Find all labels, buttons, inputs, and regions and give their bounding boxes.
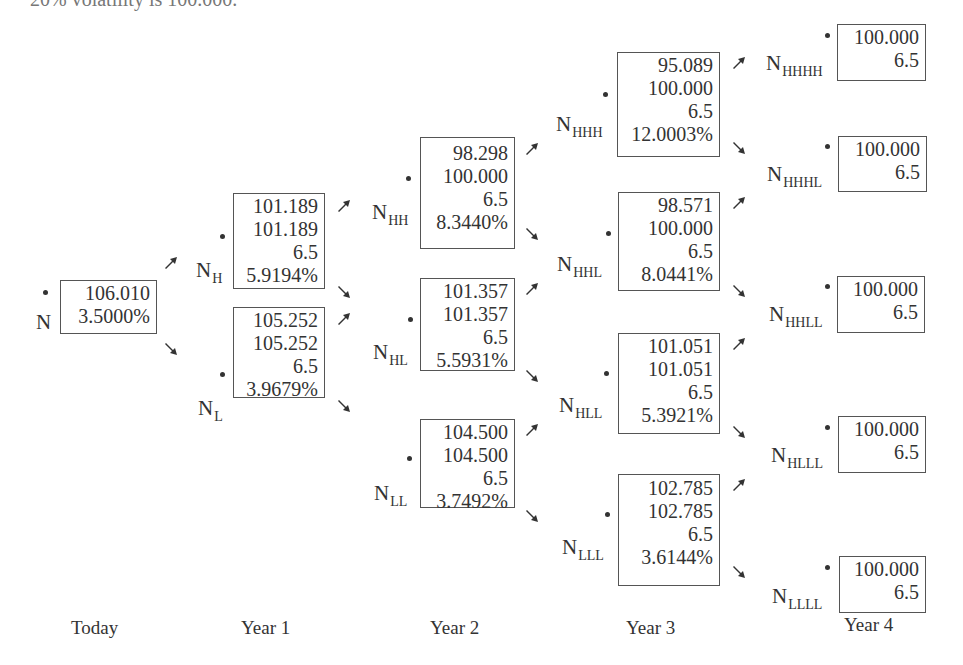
arrow-down-right-icon [731, 564, 747, 580]
node-coupon: 6.5 [427, 188, 508, 211]
node-label-nllll: NLLLL [772, 584, 822, 613]
node-rate: 3.7492% [427, 490, 508, 513]
arrow-up-right-icon [163, 255, 179, 271]
arrow-down-right-icon [524, 226, 540, 242]
node-box-nh: 101.189 101.189 6.5 5.9194% [233, 193, 325, 289]
arrow-up-right-icon [731, 336, 747, 352]
node-rate: 3.5000% [67, 305, 150, 328]
node-dot [407, 456, 412, 461]
arrow-down-right-icon [731, 140, 747, 156]
node-price: 98.298 [427, 142, 508, 165]
node-value: 100.000 [624, 77, 713, 100]
node-label-nhhhl: NHHHL [767, 162, 822, 191]
node-value: 100.000 [846, 558, 919, 581]
clipped-header-text: 20% volatility is 100.000. [30, 0, 237, 11]
node-dot [220, 234, 225, 239]
node-value: 106.010 [67, 282, 150, 305]
arrow-down-right-icon [731, 283, 747, 299]
arrow-down-right-icon [336, 284, 352, 300]
node-price: 95.089 [624, 54, 713, 77]
node-box-nhh: 98.298 100.000 6.5 8.3440% [420, 137, 515, 249]
node-value: 104.500 [427, 444, 508, 467]
arrow-up-right-icon [731, 477, 747, 493]
node-dot [825, 565, 830, 570]
node-coupon: 6.5 [427, 467, 508, 490]
node-price: 101.357 [427, 280, 508, 303]
node-coupon: 6.5 [624, 100, 713, 123]
node-value: 100.000 [844, 26, 919, 49]
period-label-today: Today [71, 617, 118, 639]
arrow-up-right-icon [524, 141, 540, 157]
node-box-nl: 105.252 105.252 6.5 3.9679% [233, 307, 325, 398]
node-label-nhl: NHL [373, 340, 408, 369]
node-rate: 12.0003% [624, 123, 713, 146]
period-label-year3: Year 3 [626, 617, 675, 639]
node-box-nhhll: 100.000 6.5 [837, 276, 925, 333]
node-label-nhhh: NHHH [556, 112, 603, 141]
node-value: 100.000 [625, 217, 713, 240]
node-label-nll: NLL [374, 481, 407, 510]
node-value: 102.785 [625, 500, 713, 523]
node-coupon: 6.5 [846, 581, 919, 604]
node-coupon: 6.5 [625, 240, 713, 263]
arrow-down-right-icon [336, 398, 352, 414]
node-box-nhlll: 100.000 6.5 [838, 416, 926, 473]
node-dot [606, 231, 611, 236]
node-value: 100.000 [845, 138, 920, 161]
node-value: 100.000 [845, 418, 919, 441]
node-dot [220, 372, 225, 377]
node-dot [825, 33, 830, 38]
node-coupon: 6.5 [240, 355, 318, 378]
arrow-up-right-icon [336, 198, 352, 214]
arrow-up-right-icon [336, 311, 352, 327]
arrow-down-right-icon [524, 508, 540, 524]
node-label-nhhhh: NHHHH [766, 51, 823, 80]
node-value: 100.000 [427, 165, 508, 188]
node-rate: 3.9679% [240, 378, 318, 401]
node-dot [43, 290, 48, 295]
node-dot [605, 512, 610, 517]
node-box-nhhh: 95.089 100.000 6.5 12.0003% [617, 52, 720, 157]
node-coupon: 6.5 [844, 49, 919, 72]
arrow-down-right-icon [163, 341, 179, 357]
node-label-nh: NH [196, 258, 222, 287]
node-dot [825, 425, 830, 430]
period-label-year4: Year 4 [844, 614, 893, 636]
node-box-nhl: 101.357 101.357 6.5 5.5931% [420, 278, 515, 371]
node-dot [603, 92, 608, 97]
node-value: 100.000 [844, 278, 918, 301]
node-box-n: 106.010 3.5000% [60, 280, 157, 334]
node-label-nhhl: NHHL [557, 252, 602, 281]
node-coupon: 6.5 [845, 441, 919, 464]
node-value: 101.357 [427, 303, 508, 326]
period-label-year2: Year 2 [430, 617, 479, 639]
node-dot [604, 371, 609, 376]
node-price: 102.785 [625, 477, 713, 500]
node-dot [825, 144, 830, 149]
arrow-up-right-icon [524, 281, 540, 297]
node-coupon: 6.5 [427, 326, 508, 349]
node-box-nllll: 100.000 6.5 [839, 556, 926, 613]
node-label-nhhll: NHHLL [769, 302, 823, 331]
node-price: 98.571 [625, 194, 713, 217]
node-coupon: 6.5 [845, 161, 920, 184]
arrow-up-right-icon [731, 195, 747, 211]
node-coupon: 6.5 [240, 241, 318, 264]
node-rate: 5.3921% [625, 404, 713, 427]
node-box-nll: 104.500 104.500 6.5 3.7492% [420, 419, 515, 508]
node-price: 101.189 [240, 195, 318, 218]
node-rate: 5.5931% [427, 349, 508, 372]
node-box-nhll: 101.051 101.051 6.5 5.3921% [618, 333, 720, 434]
node-dot [408, 317, 413, 322]
node-price: 104.500 [427, 421, 508, 444]
node-box-nhhhl: 100.000 6.5 [838, 136, 927, 192]
node-value: 101.051 [625, 358, 713, 381]
node-value: 105.252 [240, 332, 318, 355]
node-rate: 3.6144% [625, 546, 713, 569]
arrow-up-right-icon [524, 422, 540, 438]
arrow-down-right-icon [524, 368, 540, 384]
period-label-year1: Year 1 [241, 617, 290, 639]
node-label-nhlll: NHLLL [771, 443, 823, 472]
node-price: 101.051 [625, 335, 713, 358]
node-box-nlll: 102.785 102.785 6.5 3.6144% [618, 474, 720, 586]
